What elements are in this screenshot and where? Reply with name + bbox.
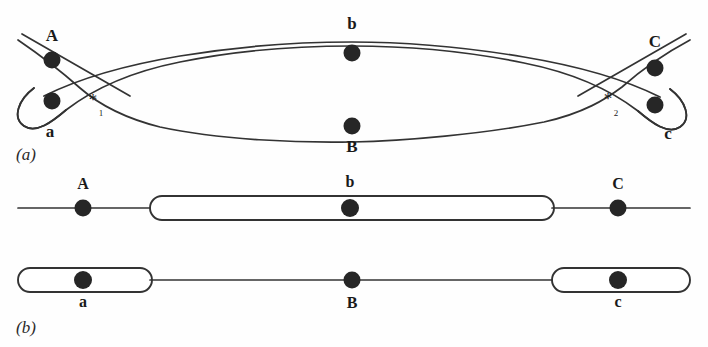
marker-dot-B-panel-b: [344, 272, 361, 289]
marker-dot-A-panel-a: [44, 52, 61, 69]
marker-dot-C-panel-a: [647, 60, 664, 77]
marker-label-C-panel-a: C: [649, 32, 661, 51]
marker-label-A-panel-a: A: [46, 26, 59, 45]
figure-root: A a b B C c * 1 * 2 (a) A b C: [0, 0, 708, 347]
marker-dot-b-panel-b: [341, 199, 359, 217]
marker-label-B-panel-b: B: [347, 294, 358, 311]
strand-right-arm-C: [578, 34, 686, 96]
marker-label-A-panel-b: A: [77, 175, 89, 192]
marker-label-c-panel-a: c: [664, 124, 672, 143]
panel-a-group: A a b B C c * 1 * 2: [18, 14, 690, 156]
crossover-1-subscript: 1: [99, 108, 104, 118]
marker-label-b-panel-a: b: [347, 14, 356, 33]
marker-label-c-panel-b: c: [614, 293, 621, 310]
marker-dot-a-panel-b: [74, 271, 92, 289]
strand-left-arm-A: [22, 34, 130, 96]
crossover-2-asterisk: *: [604, 89, 613, 108]
marker-dot-c-panel-a: [647, 97, 664, 114]
marker-dot-c-panel-b: [609, 271, 627, 289]
panel-b-group: A b C a B c: [18, 173, 690, 311]
marker-label-b-panel-b: b: [346, 173, 355, 190]
crossover-2-subscript: 2: [614, 108, 619, 118]
marker-label-B-panel-a: B: [346, 137, 357, 156]
panel-a-markers: [44, 45, 664, 135]
panel-label-a: (a): [16, 145, 36, 164]
hairpin-cap-left: [18, 88, 66, 129]
marker-label-a-panel-b: a: [79, 293, 87, 310]
crossover-1-asterisk: *: [89, 90, 98, 109]
marker-label-a-panel-a: a: [46, 122, 55, 141]
marker-label-C-panel-b: C: [612, 175, 624, 192]
marker-dot-C-panel-b: [610, 200, 627, 217]
marker-dot-A-panel-b: [75, 200, 92, 217]
marker-dot-B-panel-a: [344, 118, 361, 135]
chromosome-diagram: A a b B C c * 1 * 2 (a) A b C: [0, 0, 708, 347]
marker-dot-a-panel-a: [44, 93, 61, 110]
marker-dot-b-panel-a: [344, 45, 361, 62]
panel-label-b: (b): [16, 318, 36, 337]
